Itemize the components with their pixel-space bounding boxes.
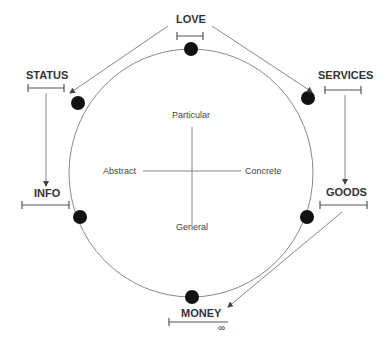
- arrow-love-services: [212, 26, 312, 92]
- axis-label-general: General: [176, 222, 208, 232]
- range-services: [325, 86, 361, 94]
- range-info: [22, 201, 69, 209]
- axis-label-concrete: Concrete: [245, 166, 282, 176]
- range-goods: [320, 201, 367, 209]
- resource-theory-diagram: LOVE SERVICES GOODS MONEY ∞ INFO STATUS …: [0, 0, 386, 346]
- label-status: STATUS: [26, 69, 68, 81]
- label-love: LOVE: [176, 13, 206, 25]
- axis-label-particular: Particular: [172, 110, 210, 120]
- money-infinity-label: ∞: [218, 322, 225, 333]
- dot-status: [71, 96, 85, 110]
- label-services: SERVICES: [318, 69, 373, 81]
- dot-services: [301, 91, 315, 105]
- range-love: [177, 32, 203, 40]
- arrow-goods-money: [228, 212, 342, 307]
- label-info: INFO: [34, 187, 60, 199]
- dot-info: [73, 210, 87, 224]
- label-money: MONEY: [181, 307, 221, 319]
- dot-goods: [300, 210, 314, 224]
- axis-label-abstract: Abstract: [103, 166, 136, 176]
- dot-money: [185, 290, 199, 304]
- diagram-graphics: [0, 0, 386, 346]
- range-status: [28, 84, 64, 92]
- arrow-love-status: [70, 26, 168, 93]
- dot-love: [184, 42, 198, 56]
- label-goods: GOODS: [326, 186, 367, 198]
